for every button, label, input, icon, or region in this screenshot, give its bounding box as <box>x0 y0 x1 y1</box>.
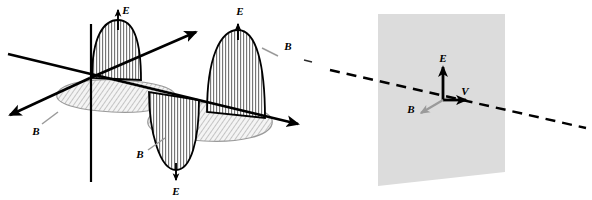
em-wave-figure: E E E B B B E <box>0 0 592 200</box>
b-leader-left <box>42 112 58 124</box>
e-field-lobe-trough-1 <box>149 92 199 170</box>
label-b-middle: B <box>135 148 143 160</box>
e-field-lobe-crest-1 <box>92 20 141 80</box>
electromagnetic-wave-3d-panel: E E E B B B <box>8 4 312 197</box>
b-leader-right <box>262 48 278 56</box>
label-b-plane: B <box>406 103 414 115</box>
stray-tick <box>304 60 312 62</box>
label-e-trough-1: E <box>171 185 179 197</box>
label-e-crest-2: E <box>235 5 243 17</box>
label-e-plane: E <box>438 52 446 64</box>
figure-canvas: E E E B B B E <box>0 0 592 200</box>
label-e-crest-1: E <box>121 4 129 16</box>
wavefront-plane-panel: E V B <box>330 14 586 186</box>
label-b-right: B <box>283 40 291 52</box>
label-b-left: B <box>31 125 39 137</box>
